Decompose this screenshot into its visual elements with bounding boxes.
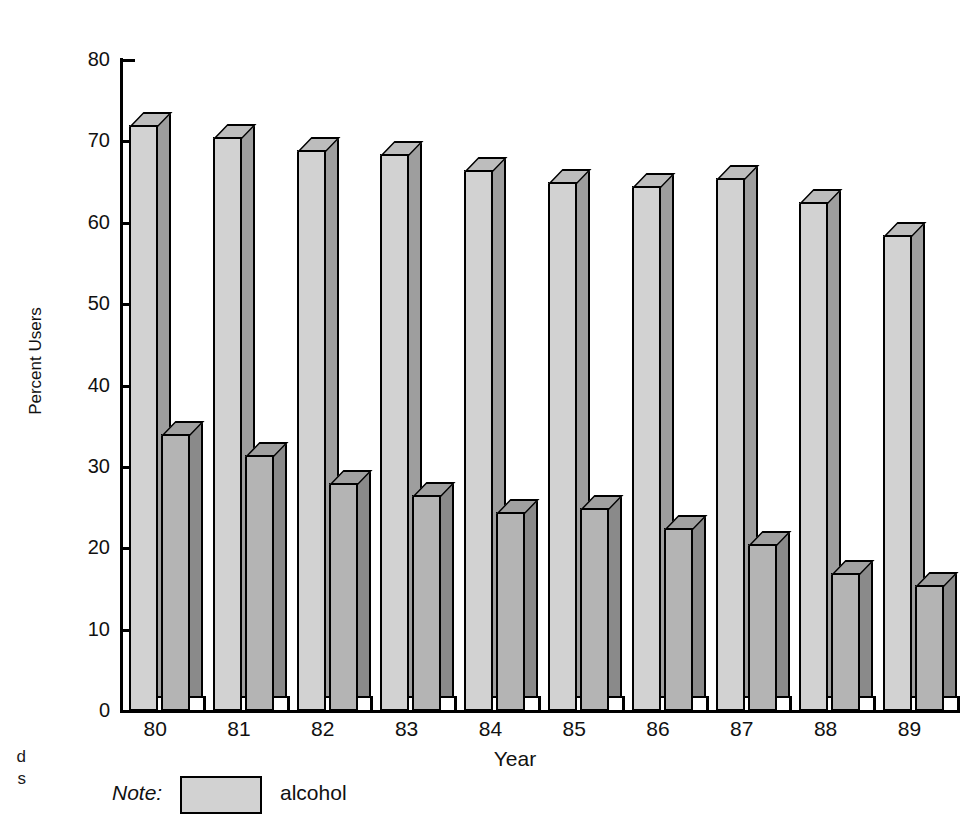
bar-front-face <box>129 125 158 711</box>
bar-side-face <box>942 572 957 698</box>
x-tick-9 <box>873 696 876 713</box>
bar-series-2-80 <box>161 421 203 711</box>
y-tick-label-0: 0 <box>64 700 110 720</box>
bar-series-2-83 <box>412 482 454 711</box>
bar-front-face <box>380 154 409 711</box>
bar-front-face <box>915 585 944 711</box>
x-tick-1 <box>203 696 206 713</box>
x-tick-label-83: 83 <box>377 718 437 740</box>
bar-front-face <box>831 573 860 711</box>
bar-front-face <box>883 235 912 711</box>
bar-front-face <box>799 202 828 711</box>
x-tick-label-81: 81 <box>209 718 269 740</box>
legend-swatch-alcohol <box>180 776 262 814</box>
y-axis-title: Percent Users <box>27 281 45 441</box>
x-tick-label-80: 80 <box>125 718 185 740</box>
bar-front-face <box>716 178 745 711</box>
x-tick-10 <box>957 696 960 713</box>
margin-note-line-1: d <box>0 746 26 768</box>
bar-front-face <box>329 483 358 711</box>
bar-front-face <box>748 544 777 711</box>
bar-side-face <box>272 442 287 698</box>
y-tick-label-20: 20 <box>64 537 110 557</box>
bar-front-face <box>161 434 190 711</box>
bar-front-face <box>580 508 609 711</box>
x-tick-label-86: 86 <box>628 718 688 740</box>
bar-series-2-81 <box>245 442 287 711</box>
bar-front-face <box>464 170 493 711</box>
x-tick-5 <box>538 696 541 713</box>
bar-series-2-89 <box>915 572 957 711</box>
x-tick-label-85: 85 <box>544 718 604 740</box>
bar-front-face <box>213 137 242 711</box>
x-axis-title: Year <box>455 748 575 770</box>
y-tick-label-60: 60 <box>64 212 110 232</box>
bar-side-face <box>607 495 622 698</box>
bar-front-face <box>664 528 693 711</box>
bar-front-face <box>496 512 525 711</box>
bar-side-face <box>858 560 873 698</box>
bar-front-face <box>632 186 661 711</box>
bar-series-2-87 <box>748 531 790 711</box>
bar-front-face <box>245 455 274 711</box>
y-tick-label-30: 30 <box>64 456 110 476</box>
bar-side-face <box>356 470 371 698</box>
note-label: Note: <box>112 782 162 804</box>
x-tick-label-88: 88 <box>796 718 856 740</box>
bar-side-face <box>523 499 538 698</box>
x-tick-7 <box>706 696 709 713</box>
bar-series-2-84 <box>496 499 538 711</box>
x-tick-2 <box>287 696 290 713</box>
x-tick-label-82: 82 <box>293 718 353 740</box>
bar-series-2-82 <box>329 470 371 711</box>
y-tick-label-40: 40 <box>64 375 110 395</box>
x-tick-3 <box>370 696 373 713</box>
x-tick-label-89: 89 <box>879 718 939 740</box>
bar-side-face <box>775 531 790 698</box>
y-tick-label-70: 70 <box>64 130 110 150</box>
bar-front-face <box>548 182 577 711</box>
legend-label-alcohol: alcohol <box>280 782 347 804</box>
bar-front-face <box>297 150 326 711</box>
x-tick-6 <box>622 696 625 713</box>
y-tick-label-50: 50 <box>64 293 110 313</box>
bar-front-face <box>412 495 441 711</box>
bar-series-2-88 <box>831 560 873 711</box>
x-tick-label-87: 87 <box>712 718 772 740</box>
x-tick-label-84: 84 <box>460 718 520 740</box>
margin-note-line-2: s <box>0 768 26 790</box>
x-tick-8 <box>789 696 792 713</box>
bar-series-2-85 <box>580 495 622 711</box>
y-tick-80 <box>121 59 135 62</box>
bar-side-face <box>691 515 706 698</box>
y-tick-label-80: 80 <box>64 49 110 69</box>
bar-chart-figure: d s Percent Users Year 01020304050607080… <box>0 0 976 817</box>
x-tick-4 <box>454 696 457 713</box>
bar-side-face <box>188 421 203 698</box>
bar-side-face <box>439 482 454 698</box>
bar-series-2-86 <box>664 515 706 711</box>
y-tick-label-10: 10 <box>64 619 110 639</box>
